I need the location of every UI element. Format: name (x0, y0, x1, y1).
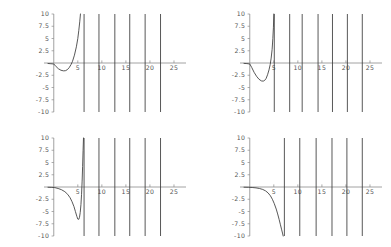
y-tick-label: -2.5 (36, 71, 49, 78)
y-tick-label: -5 (42, 207, 49, 214)
plot-grid: 107.552.5-2.5-5-7.5-10510152025107.552.5… (0, 0, 391, 247)
y-tick-label: 5 (45, 158, 49, 165)
panel-top-right: 107.552.5-2.5-5-7.5-10510152025 (196, 0, 391, 123)
x-tick-label: 25 (365, 64, 374, 71)
panel-top-left-canvas: 107.552.5-2.5-5-7.5-10510152025 (0, 0, 195, 123)
y-tick-label: 5 (240, 35, 244, 42)
y-tick-label: 10 (41, 10, 50, 17)
y-tick-label: -10 (38, 108, 49, 115)
y-tick-label: -7.5 (231, 219, 244, 226)
x-tick-label: 5 (76, 188, 80, 195)
y-tick-label: 5 (240, 158, 244, 165)
y-tick-label: 7.5 (234, 146, 245, 153)
y-tick-label: 2.5 (38, 170, 49, 177)
y-tick-label: 2.5 (38, 47, 49, 54)
x-tick-label: 25 (170, 64, 179, 71)
y-tick-label: -2.5 (231, 195, 244, 202)
x-tick-label: 15 (317, 188, 326, 195)
y-tick-label: -10 (38, 232, 49, 239)
panel-bottom-left-canvas: 107.552.5-2.5-5-7.5-10510152025 (0, 124, 195, 247)
x-tick-label: 15 (122, 188, 131, 195)
y-tick-label: -7.5 (36, 219, 49, 226)
function-curve (48, 14, 80, 71)
y-tick-label: 2.5 (234, 47, 245, 54)
panel-top-right-canvas: 107.552.5-2.5-5-7.5-10510152025 (196, 0, 391, 123)
panel-bottom-right: 107.552.5-2.5-5-7.5-10510152025 (196, 124, 391, 247)
x-tick-label: 10 (293, 64, 302, 71)
y-tick-label: 7.5 (38, 22, 49, 29)
y-tick-label: -2.5 (231, 71, 244, 78)
y-tick-label: 10 (41, 134, 50, 141)
y-tick-label: -10 (234, 232, 245, 239)
function-curve (244, 14, 274, 81)
panel-top-left: 107.552.5-2.5-5-7.5-10510152025 (0, 0, 195, 123)
x-tick-label: 20 (341, 64, 350, 71)
y-tick-label: 5 (45, 35, 49, 42)
y-tick-label: -5 (238, 84, 245, 91)
x-tick-label: 10 (293, 188, 302, 195)
y-tick-label: -10 (234, 108, 245, 115)
y-tick-label: 10 (236, 10, 245, 17)
x-tick-label: 15 (317, 64, 326, 71)
x-tick-label: 20 (146, 64, 155, 71)
x-tick-label: 20 (341, 188, 350, 195)
y-tick-label: -7.5 (36, 96, 49, 103)
x-tick-label: 5 (271, 64, 275, 71)
x-tick-label: 25 (365, 188, 374, 195)
y-tick-label: 2.5 (234, 170, 245, 177)
y-tick-label: 10 (236, 134, 245, 141)
y-tick-label: -2.5 (36, 195, 49, 202)
panel-bottom-right-canvas: 107.552.5-2.5-5-7.5-10510152025 (196, 124, 391, 247)
y-tick-label: -7.5 (231, 96, 244, 103)
y-tick-label: -5 (42, 84, 49, 91)
x-tick-label: 5 (76, 64, 80, 71)
y-tick-label: 7.5 (234, 22, 245, 29)
x-tick-label: 15 (122, 64, 131, 71)
y-tick-label: 7.5 (38, 146, 49, 153)
x-tick-label: 20 (146, 188, 155, 195)
panel-bottom-left: 107.552.5-2.5-5-7.5-10510152025 (0, 124, 195, 247)
x-tick-label: 25 (170, 188, 179, 195)
x-tick-label: 5 (271, 188, 275, 195)
y-tick-label: -5 (238, 207, 245, 214)
